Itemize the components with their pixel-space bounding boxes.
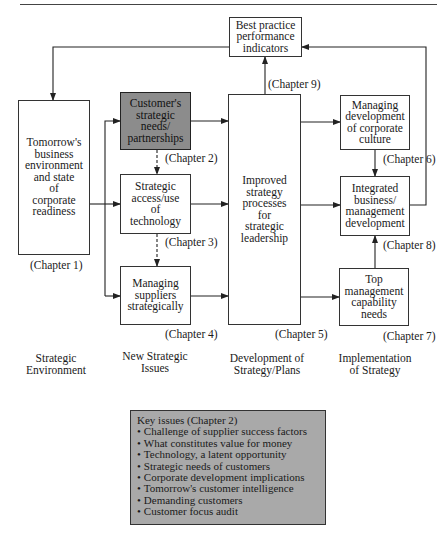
column-label-development-of-strategy: Development of Strategy/Plans: [222, 352, 312, 376]
chapter-9-label: (Chapter 9): [268, 78, 321, 90]
box-label: Strategic access/use of technology: [130, 181, 181, 227]
chapter-6-label: (Chapter 6): [383, 153, 436, 165]
column-label-strategic-environment: Strategic Environment: [14, 352, 98, 376]
box-label: Managing suppliers strategically: [127, 278, 183, 313]
top-management-box: Top management capability needs: [339, 268, 409, 326]
box-label: Improved strategy processes for strategi…: [241, 175, 288, 244]
best-practice-box: Best practice performance indicators: [229, 17, 302, 57]
chapter-1-label: (Chapter 1): [30, 259, 83, 271]
tomorrows-environment-box: Tomorrow's business environment and stat…: [18, 100, 90, 255]
box-label: Best practice performance indicators: [236, 20, 296, 55]
key-issue-item: Customer focus audit: [137, 506, 319, 517]
customer-needs-box: Customer's strategic needs/ partnerships: [120, 92, 191, 150]
chapter-3-label: (Chapter 3): [165, 236, 218, 248]
integrated-development-box: Integrated business/ management developm…: [340, 176, 410, 236]
box-label: Managing development of corporate cultur…: [345, 100, 404, 146]
chapter-8-label: (Chapter 8): [383, 239, 436, 251]
column-label-implementation: Implementation of Strategy: [330, 352, 420, 376]
chapter-4-label: (Chapter 4): [165, 328, 218, 340]
key-issue-item: Technology, a latent opportunity: [137, 449, 319, 460]
chapter-2-label: (Chapter 2): [165, 152, 218, 164]
box-label: Top management capability needs: [345, 274, 404, 320]
chapter-5-label: (Chapter 5): [275, 328, 328, 340]
key-issues-list: Challenge of supplier success factors Wh…: [137, 426, 319, 517]
box-label: Tomorrow's business environment and stat…: [25, 137, 83, 218]
box-label: Integrated business/ management developm…: [345, 183, 404, 229]
chapter-7-label: (Chapter 7): [383, 330, 436, 342]
corporate-culture-box: Managing development of corporate cultur…: [340, 95, 410, 150]
box-label: Customer's strategic needs/ partnerships: [127, 98, 183, 144]
improved-strategy-box: Improved strategy processes for strategi…: [228, 94, 301, 325]
column-label-new-strategic-issues: New Strategic Issues: [110, 350, 200, 374]
strategic-access-box: Strategic access/use of technology: [120, 174, 191, 234]
managing-suppliers-box: Managing suppliers strategically: [120, 266, 191, 325]
key-issues-box: Key issues (Chapter 2) Challenge of supp…: [130, 410, 326, 525]
